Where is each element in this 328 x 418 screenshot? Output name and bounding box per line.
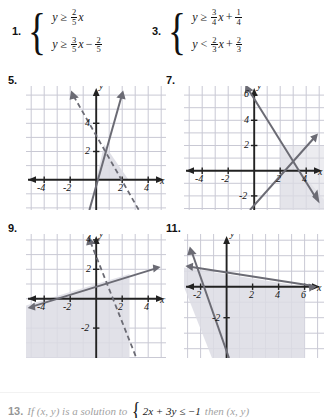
graph-7-y-axis-label: y [257,86,261,91]
problem-13-inequality: 2x + 3y ≤ −1 [143,405,201,417]
fraction-constant: 2 5 [95,36,101,54]
problem-1: 1. { y ≥ 2 5 x y ≥ 3 5 [12,6,103,56]
lhs: y [52,37,57,52]
fraction-constant: 2 3 [236,36,242,54]
problem-13-text-before: If (x, y) is a solution to [27,405,127,417]
graph-7-x-tick: 4 [302,173,307,184]
fraction-coefficient: 2 5 [71,8,77,26]
graph-9-y-tick: 4 [86,234,91,244]
graph-9-y-tick: -2 [81,322,89,333]
graph-7-x-tick: -2 [221,173,229,184]
graph-5-y-tick: 2 [85,145,90,156]
brace-icon: { [28,6,46,56]
fraction-denominator: 5 [71,17,77,27]
section-divider [0,392,320,393]
fraction-coefficient: 3 5 [71,36,77,54]
graph-5-y-axis-label: y [99,86,103,91]
graph-11: x y -2 2 4 6 -2 [184,234,328,358]
operator: ≥ [61,37,68,52]
systems-row: 1. { y ≥ 2 5 x y ≥ 3 5 [0,4,320,68]
graph-5: x y -4 -2 2 4 4 2 [26,86,178,210]
inequality-row: y ≥ 3 4 x + 1 4 [192,8,243,26]
problem-7: 7. [166,74,318,210]
problem-9-number: 9. [8,222,17,234]
graph-11-x-axis-label: x [317,282,321,293]
graph-9-y-axis-label: y [99,234,103,239]
sign: + [226,10,233,25]
graph-11-x-tick: 6 [301,289,306,300]
fraction-denominator: 3 [211,44,217,54]
fraction-numerator: 3 [71,36,77,45]
fraction-denominator: 4 [211,17,217,27]
sign: − [86,37,93,52]
problem-11-number: 11. [166,222,181,234]
lhs: y [192,37,197,52]
graph-7-x-tick: 2 [276,173,281,184]
fraction-numerator: 1 [235,8,241,17]
fraction-denominator: 5 [71,44,77,54]
problem-5-number: 5. [8,74,17,86]
graph-7-x-tick: -4 [195,173,203,184]
graph-5-x-axis-label: x [160,175,164,186]
problem-13-number: 13. [8,405,23,417]
problem-13: 13. If (x, y) is a solution to { 2x + 3y… [8,401,320,418]
problem-3: 3. { y ≥ 3 4 x + 1 4 [152,6,243,56]
fraction-numerator: 2 [95,36,101,45]
brace-icon: { [132,401,141,418]
graph-7-y-tick: 4 [244,114,249,125]
fraction-numerator: 3 [211,8,217,17]
inequality-row: y < 2 3 x + 2 3 [192,36,243,54]
inequality-row: y ≥ 2 5 x [52,8,103,26]
fraction-coefficient: 3 4 [211,8,217,26]
graph-9-y-tick: 2 [86,263,91,274]
operator: ≥ [201,10,208,25]
graph-9-x-tick: -2 [63,301,71,312]
graph-7-x-axis-label: x [318,166,322,177]
graph-7: x y -4 -2 2 4 6 4 2 -2 [184,86,328,210]
graph-7-y-tick: -2 [239,190,247,201]
variable: x [78,37,83,52]
graph-9-svg [26,234,166,358]
problem-11: 11. [166,222,318,358]
problem-1-number: 1. [12,25,21,37]
graph-7-y-tick: 2 [244,139,249,150]
graph-11-y-tick: -2 [212,312,220,323]
inequality-row: y ≥ 3 5 x − 2 5 [52,36,103,54]
graph-9-x-axis-label: x [160,294,164,305]
variable: x [218,10,223,25]
graph-11-y-axis-label: y [230,234,234,239]
problem-7-number: 7. [166,74,175,86]
sign: + [226,37,233,52]
fraction-denominator: 4 [235,17,241,27]
lhs: y [52,10,57,25]
fraction-constant: 1 4 [235,8,241,26]
fraction-numerator: 2 [236,36,242,45]
lhs: y [192,10,197,25]
variable: x [78,10,83,25]
operator: ≥ [61,10,68,25]
graph-7-y-tick: 6 [244,88,249,99]
graph-9-x-tick: 2 [118,301,123,312]
fraction-numerator: 2 [211,36,217,45]
fraction-numerator: 2 [71,8,77,17]
problem-9: 9. [8,222,160,358]
graph-11-x-tick: -2 [193,289,201,300]
graph-5-x-tick: 4 [144,182,149,193]
graph-11-x-tick: 2 [249,289,254,300]
problem-5: 5. [8,74,160,210]
problem-3-number: 3. [152,25,161,37]
graph-5-x-tick: 2 [118,182,123,193]
problem-13-text-after: then (x, y) [205,405,249,417]
graph-9-x-tick: 4 [144,301,149,312]
fraction-denominator: 5 [95,44,101,54]
graph-5-x-tick: -4 [37,182,45,193]
graph-5-y-tick: 4 [85,117,90,128]
graph-9-x-tick: -4 [37,301,45,312]
graph-9: x y -4 -2 2 4 4 2 -2 [26,234,178,358]
fraction-denominator: 3 [236,44,242,54]
graph-11-x-tick: 4 [275,289,280,300]
operator: < [201,37,208,52]
problem-1-inequalities: y ≥ 2 5 x y ≥ 3 5 x − [52,8,103,54]
problem-3-inequalities: y ≥ 3 4 x + 1 4 y < [192,8,243,54]
